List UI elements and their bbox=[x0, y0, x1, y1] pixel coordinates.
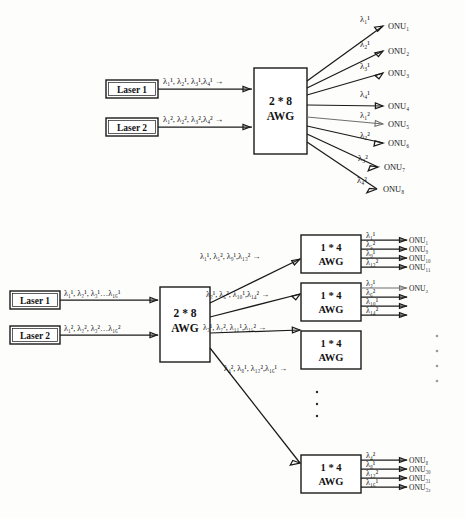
sub-awg-1-wl-4: λ₁₃² bbox=[366, 258, 379, 267]
sub-awg-4-onu-4: ONU₃₂ bbox=[409, 483, 431, 492]
sub-awg-3: 1 * 4 AWG bbox=[301, 331, 361, 369]
sub-awg-4-wl-1: λ₄² bbox=[366, 451, 376, 460]
bottom-laser-1: Laser 1 bbox=[10, 291, 60, 309]
bottom-branch-label-3: λ₃¹, λ₇², λ₁₁¹,λ₁₅² → bbox=[203, 323, 266, 332]
sub-awg-2-line2: AWG bbox=[318, 304, 343, 315]
bottom-laser-2-label: Laser 2 bbox=[20, 331, 50, 341]
top-onu-3: ONU₃ bbox=[388, 69, 409, 78]
bottom-branch-label-4: λ₄², λ₈¹, λ₁₂²,λ₁₆¹ → bbox=[224, 364, 287, 373]
bottom-awg-label-line2: AWG bbox=[171, 322, 199, 334]
top-output-wl-1: λ₁¹ bbox=[360, 14, 370, 24]
top-awg-block: 2 * 8 AWG bbox=[254, 68, 307, 154]
top-onu-6: ONU₆ bbox=[388, 139, 409, 148]
sub-awg-2-wl-3: λ₁₀¹ bbox=[366, 297, 379, 306]
awg-wdm-pon-figure: Laser 1 Laser 2 λ₁¹, λ₂¹, λ₃¹,λ₄¹ → λ₁²,… bbox=[0, 0, 465, 518]
bottom-diagram: Laser 1 Laser 2 λ₁¹, λ₂¹, λ₃¹…λ₁₆¹ λ₁², … bbox=[10, 231, 438, 493]
top-laser-2: Laser 2 bbox=[106, 118, 158, 136]
sub-awg-1-line2: AWG bbox=[318, 256, 343, 267]
top-output-wl-4: λ₄¹ bbox=[360, 89, 370, 99]
sub-awg-2-wl-2: λ₆² bbox=[366, 288, 376, 297]
sub-awg-4-wl-2: λ₈¹ bbox=[366, 460, 376, 469]
center-ellipsis bbox=[316, 391, 318, 417]
top-input-label-1: λ₁¹, λ₂¹, λ₃¹,λ₄¹ → bbox=[163, 76, 223, 86]
sub-awg-1-onu-2: ONU₉ bbox=[409, 245, 428, 254]
top-output-lines bbox=[307, 26, 383, 193]
top-diagram: Laser 1 Laser 2 λ₁¹, λ₂¹, λ₃¹,λ₄¹ → λ₁²,… bbox=[106, 14, 409, 194]
bottom-laser-1-label: Laser 1 bbox=[20, 296, 50, 306]
top-output-wl-3: λ₃¹ bbox=[360, 61, 370, 71]
top-input-label-2: λ₁², λ₂², λ₃²,λ₄² → bbox=[163, 114, 223, 124]
top-output-wl-6: λ₂² bbox=[360, 130, 370, 140]
bottom-laser-2: Laser 2 bbox=[10, 326, 60, 344]
top-output-wl-2: λ₂¹ bbox=[360, 39, 370, 49]
sub-awg-2-wl-1: λ₂¹ bbox=[366, 279, 376, 288]
sub-awg-4-onu-2: ONU₃₀ bbox=[409, 465, 431, 474]
bottom-branch-label-1: λ₁¹, λ₅², λ₉¹,λ₁₃² → bbox=[200, 252, 260, 261]
bottom-awg-label-line1: 2 * 8 bbox=[174, 307, 197, 319]
sub-awg-1-wl-2: λ₅² bbox=[366, 240, 376, 249]
sub-awg-3-line2: AWG bbox=[318, 352, 343, 363]
sub-awg-1-onu-4: ONU₁₁ bbox=[409, 263, 431, 272]
top-onu-8: ONU₈ bbox=[383, 185, 404, 194]
bottom-input-label-1: λ₁¹, λ₂¹, λ₃¹…λ₁₆¹ bbox=[64, 289, 121, 298]
top-onu-7: ONU₇ bbox=[384, 163, 405, 172]
top-onu-2: ONU₂ bbox=[388, 47, 409, 56]
bottom-branch-label-2: λ₂¹, λ₆², λ₁₀¹,λ₁₄² → bbox=[206, 290, 269, 299]
top-awg-label-line1: 2 * 8 bbox=[269, 95, 292, 107]
top-laser-2-label: Laser 2 bbox=[117, 123, 147, 133]
right-ellipsis bbox=[436, 335, 439, 383]
top-output-wl-7: λ₃² bbox=[358, 153, 368, 163]
sub-awg-4: 1 * 4 AWG λ₄² λ₈¹ λ₁₂² λ₁₆¹ ONU₈ ONU₃₀ O… bbox=[301, 451, 431, 493]
sub-awg-2-wl-4: λ₁₄² bbox=[366, 306, 379, 315]
sub-awg-1-wl-1: λ₁¹ bbox=[366, 231, 376, 240]
sub-awg-2-line1: 1 * 4 bbox=[321, 290, 343, 301]
sub-awg-2: 1 * 4 AWG λ₂¹ λ₆² λ₁₀¹ λ₁₄² ONU₂ bbox=[301, 279, 428, 321]
sub-awg-4-onu-1: ONU₈ bbox=[409, 456, 428, 465]
sub-awg-3-line1: 1 * 4 bbox=[321, 338, 343, 349]
top-laser-1-label: Laser 1 bbox=[117, 85, 147, 95]
sub-awg-1: 1 * 4 AWG λ₁¹ λ₅² λ₉¹ λ₁₃² ONU₁ ONU₉ ONU… bbox=[301, 231, 431, 273]
sub-awg-2-onu-1: ONU₂ bbox=[409, 284, 428, 293]
sub-awg-1-onu-3: ONU₁₀ bbox=[409, 254, 431, 263]
sub-awg-1-line1: 1 * 4 bbox=[321, 242, 343, 253]
bottom-input-label-2: λ₁², λ₂², λ₃²…λ₁₆² bbox=[64, 324, 121, 333]
top-output-wl-8: λ₄² bbox=[357, 175, 367, 185]
top-onu-1: ONU₁ bbox=[388, 22, 409, 31]
sub-awg-4-onu-3: ONU₃₁ bbox=[409, 474, 431, 483]
sub-awg-1-wl-3: λ₉¹ bbox=[366, 249, 376, 258]
sub-awg-4-line2: AWG bbox=[318, 476, 343, 487]
sub-awg-4-wl-4: λ₁₆¹ bbox=[366, 478, 379, 487]
top-output-wl-5: λ₁² bbox=[360, 110, 370, 120]
top-awg-label-line2: AWG bbox=[267, 110, 295, 122]
sub-awg-4-wl-3: λ₁₂² bbox=[366, 469, 379, 478]
sub-awg-4-line1: 1 * 4 bbox=[321, 462, 343, 473]
sub-awg-1-onu-1: ONU₁ bbox=[409, 236, 428, 245]
top-onu-4: ONU₄ bbox=[388, 102, 409, 111]
top-laser-1: Laser 1 bbox=[106, 80, 158, 98]
top-onu-5: ONU₅ bbox=[388, 120, 409, 129]
